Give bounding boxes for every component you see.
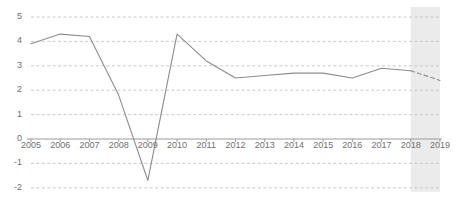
y-axis-tick-label: 4 xyxy=(0,36,22,45)
y-axis-tick-label: 5 xyxy=(0,12,22,21)
y-axis-tick-label: -2 xyxy=(0,183,22,192)
forecast-band xyxy=(411,7,440,192)
y-axis-tick-label: 2 xyxy=(0,85,22,94)
line-chart-plot xyxy=(0,0,466,198)
forecast-shading xyxy=(411,7,440,192)
y-axis-tick-label: 1 xyxy=(0,110,22,119)
y-axis-tick-label: 3 xyxy=(0,61,22,70)
data-line-series-1 xyxy=(31,34,440,180)
y-axis-tick-label: -1 xyxy=(0,158,22,167)
data-line-solid xyxy=(31,34,411,180)
chart-container: 543210-1-2 20052006200720082009201020112… xyxy=(0,0,466,198)
x-axis-tick-label: 2019 xyxy=(423,141,457,150)
